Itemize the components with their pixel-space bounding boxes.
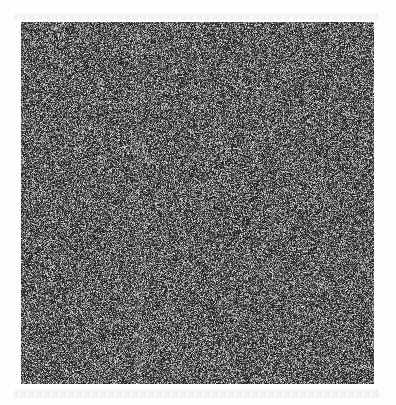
faint-top-artifact [14, 14, 380, 20]
noise-texture-square [21, 22, 374, 384]
page-background [0, 0, 396, 405]
noise-canvas [21, 22, 374, 384]
faint-bottom-artifact [14, 390, 380, 398]
